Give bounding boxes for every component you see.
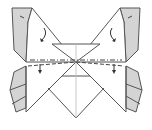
origami-diagram — [0, 0, 152, 130]
right-lower-body — [76, 62, 126, 112]
left-lower-body — [26, 62, 76, 112]
valley-fold-line-bottom-right — [76, 62, 124, 66]
valley-fold-line-bottom-left — [28, 62, 76, 66]
